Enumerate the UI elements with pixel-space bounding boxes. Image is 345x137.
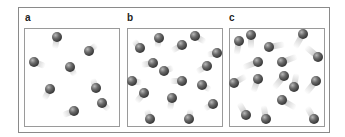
gas-molecule [84,46,94,56]
gas-molecule [261,114,271,124]
gas-molecule [148,58,158,68]
gas-molecule [91,83,101,93]
gas-molecule [154,33,164,43]
panel-label-c: c [229,13,235,23]
gas-molecule [167,93,177,103]
gas-molecule [264,42,274,52]
gas-molecule [277,57,287,67]
panel-label-b: b [127,13,133,23]
gas-molecule [241,110,251,120]
gas-molecule [65,62,75,72]
gas-molecule [97,98,107,108]
gas-molecule [139,88,149,98]
gas-molecule [253,57,263,67]
gas-molecule [212,48,222,58]
gas-molecule [234,36,244,46]
gas-molecule [135,43,145,53]
panel-label-a: a [25,13,31,23]
gas-molecule [253,74,263,84]
gas-molecule [145,114,155,124]
gas-molecule [69,106,79,116]
gas-molecule [159,66,169,76]
gas-molecule [246,30,256,40]
gas-molecule [313,52,323,62]
gas-molecule [29,57,39,67]
gas-molecule [45,84,55,94]
gas-molecule [184,114,194,124]
gas-molecule [177,76,187,86]
gas-molecule [177,40,187,50]
gas-molecule [279,71,289,81]
gas-molecule [298,29,308,39]
gas-molecule [202,61,212,71]
gas-molecule [197,80,207,90]
gas-molecule [309,114,319,124]
gas-molecule [289,82,299,92]
gas-molecule [190,31,200,41]
gas-molecule [311,76,321,86]
gas-molecule [277,95,287,105]
gas-molecule [229,78,239,88]
gas-molecule [52,32,62,42]
gas-molecule [127,76,137,86]
gas-molecule [208,99,218,109]
